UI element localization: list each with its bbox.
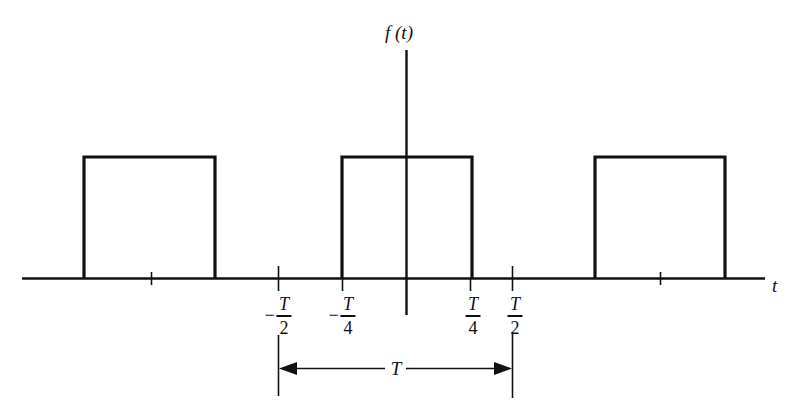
tick-label-neg-t-over-4: − T 4 [328, 295, 355, 337]
f-of-t-axis-label: f (t) [385, 22, 413, 44]
t-axis-label: t [772, 275, 778, 296]
dimension-arrowhead-right [494, 362, 512, 375]
fraction-numerator: T [277, 295, 291, 314]
fraction-denominator: 2 [278, 318, 291, 337]
figure-container: f (t) t T − T 2 − T 4 T 4 T 2 [0, 0, 805, 416]
pulse-left [84, 157, 215, 278]
fraction-sign: − [264, 306, 274, 326]
fraction-denominator: 4 [467, 318, 480, 337]
fraction-bar [341, 315, 356, 317]
fraction-stack: T 4 [341, 295, 356, 337]
fraction-denominator: 4 [342, 318, 355, 337]
fraction-bar [508, 315, 523, 317]
fraction-stack: T 2 [277, 295, 292, 337]
period-dimension-label: T [391, 358, 403, 379]
pulse-right [595, 157, 725, 278]
fraction-stack: T 4 [466, 295, 481, 337]
fraction-bar [466, 315, 481, 317]
fraction-numerator: T [508, 295, 522, 314]
tick-label-pos-t-over-4: T 4 [464, 295, 481, 337]
fraction-sign: − [328, 306, 338, 326]
fraction-stack: T 2 [508, 295, 523, 337]
fraction-denominator: 2 [509, 318, 522, 337]
fraction-numerator: T [341, 295, 355, 314]
dimension-arrowhead-left [279, 362, 297, 375]
fraction-numerator: T [466, 295, 480, 314]
fraction-bar [277, 315, 292, 317]
tick-label-pos-t-over-2: T 2 [506, 295, 523, 337]
tick-label-neg-t-over-2: − T 2 [264, 295, 291, 337]
square-wave-figure: f (t) t T [0, 0, 805, 416]
